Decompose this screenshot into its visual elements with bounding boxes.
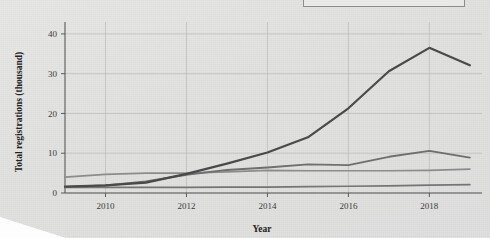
- x-axis-title: Year: [253, 224, 273, 234]
- y-tick-label: 20: [48, 109, 58, 119]
- x-tick-label: 2018: [420, 201, 439, 211]
- y-axis-tick-labels: 010203040: [48, 29, 58, 198]
- x-tick-label: 2012: [177, 201, 195, 211]
- tick-marks: [61, 34, 429, 197]
- y-tick-label: 0: [53, 188, 58, 198]
- x-tick-label: 2010: [96, 201, 115, 211]
- y-tick-label: 30: [48, 69, 58, 79]
- y-tick-label: 10: [48, 148, 58, 158]
- horizontal-gridlines: [65, 34, 482, 193]
- x-axis-tick-labels: 20102012201420162018: [96, 201, 438, 211]
- y-tick-label: 40: [48, 29, 58, 39]
- y-axis-title: Total registrations (thousand): [14, 52, 25, 172]
- chart-area: 010203040 20102012201420162018 Total reg…: [0, 0, 490, 238]
- x-tick-label: 2016: [339, 201, 358, 211]
- x-tick-label: 2014: [258, 201, 277, 211]
- line-chart-plot: 010203040 20102012201420162018 Total reg…: [0, 0, 490, 238]
